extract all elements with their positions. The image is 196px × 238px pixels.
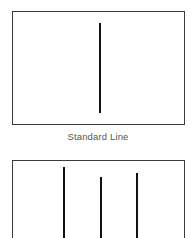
- vertical-line-mark: [63, 167, 65, 238]
- vertical-line-mark: [100, 177, 102, 238]
- figure-root: Standard Line: [0, 0, 196, 238]
- vertical-line-mark: [99, 23, 101, 113]
- panel-variant-lines: [12, 160, 185, 238]
- panel-standard-line: [12, 11, 185, 125]
- panel-caption-standard-line: Standard Line: [0, 131, 196, 143]
- vertical-line-mark: [136, 173, 138, 238]
